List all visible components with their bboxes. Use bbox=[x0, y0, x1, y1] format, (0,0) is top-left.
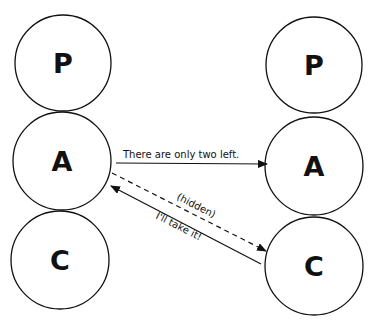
left-person: P A C bbox=[11, 15, 111, 309]
transaction-diagram: P A C P A C There are only two left. (hi… bbox=[0, 0, 373, 323]
right-child-label: C bbox=[304, 251, 324, 282]
left-adult-label: A bbox=[52, 146, 73, 177]
transaction-hidden: (hidden) bbox=[112, 173, 266, 251]
arrow-hidden-dashed bbox=[112, 173, 266, 251]
left-parent-label: P bbox=[53, 48, 73, 79]
transaction-label-1: There are only two left. bbox=[122, 149, 239, 160]
arrow-adult-to-adult bbox=[116, 163, 267, 164]
left-child-label: C bbox=[50, 245, 70, 276]
transaction-adult-to-adult: There are only two left. bbox=[116, 149, 267, 164]
right-person: P A C bbox=[265, 17, 363, 315]
transaction-label-3: I'll take it! bbox=[154, 210, 204, 242]
right-parent-label: P bbox=[304, 50, 324, 81]
right-adult-label: A bbox=[304, 151, 325, 182]
